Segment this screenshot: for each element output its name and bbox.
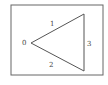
vertex-label-0: 0 bbox=[22, 39, 26, 47]
edge-label-1: 1 bbox=[50, 20, 54, 28]
triangle-shape bbox=[31, 14, 84, 71]
diagram-canvas: 0 1 3 2 bbox=[0, 0, 108, 85]
edge-label-3: 3 bbox=[87, 40, 91, 48]
edge-label-2: 2 bbox=[49, 61, 53, 69]
